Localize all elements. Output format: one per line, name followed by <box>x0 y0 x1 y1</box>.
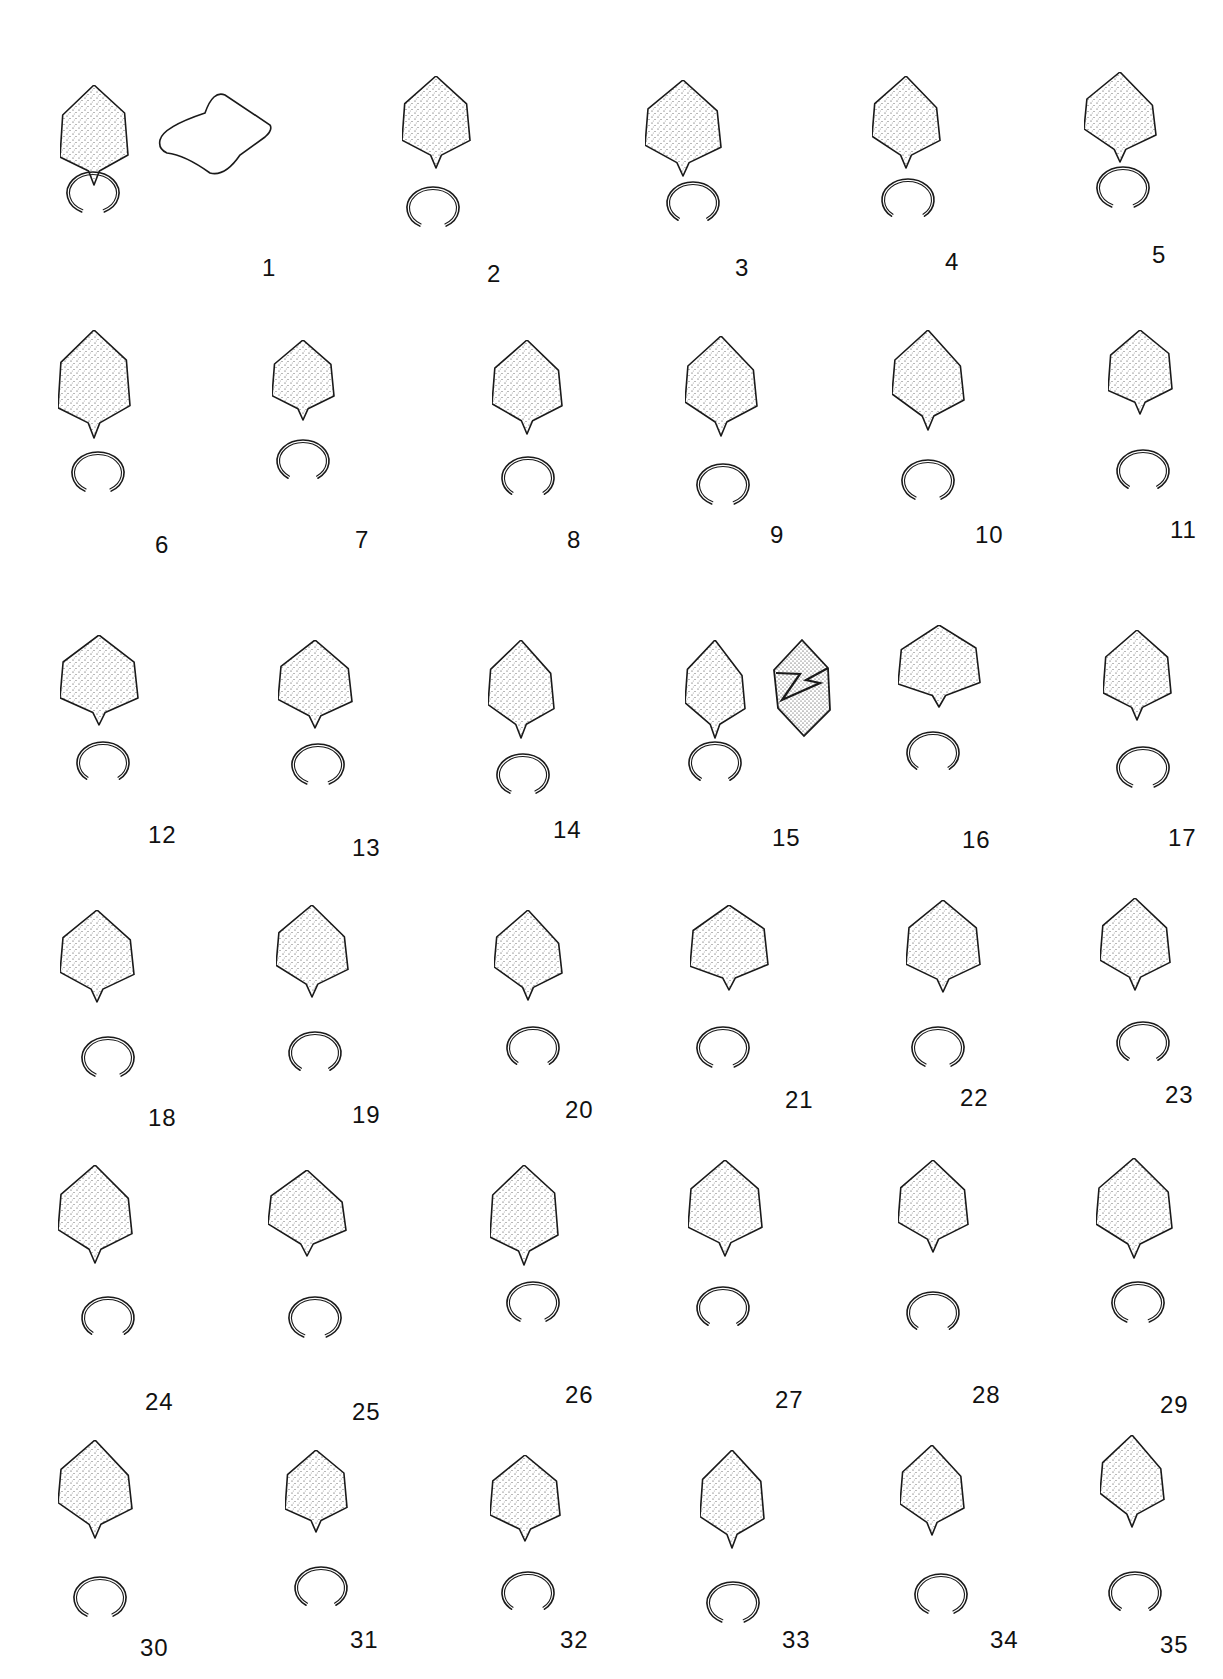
specimen-number-30: 30 <box>140 1634 169 1662</box>
specimen-outline-11 <box>1108 330 1176 418</box>
specimen-outline-8 <box>492 340 566 438</box>
specimen-outline-25 <box>268 1170 350 1260</box>
specimen-number-13: 13 <box>352 834 381 862</box>
specimen-number-33: 33 <box>782 1626 811 1654</box>
specimen-outline-27 <box>688 1160 766 1260</box>
specimen-number-4: 4 <box>945 248 959 276</box>
specimen-number-29: 29 <box>1160 1391 1189 1419</box>
specimen-outline-6 <box>58 330 134 442</box>
specimen-ring-12 <box>72 737 134 789</box>
specimen-number-17: 17 <box>1168 824 1197 852</box>
specimen-outline-13 <box>278 640 356 732</box>
specimen-number-10: 10 <box>975 521 1004 549</box>
specimen-number-18: 18 <box>148 1104 177 1132</box>
specimen-ring-32 <box>497 1567 559 1619</box>
specimen-outline-5 <box>1084 72 1160 166</box>
specimen-outline-9 <box>685 336 761 440</box>
specimen-outline-17 <box>1103 630 1175 724</box>
specimen-number-9: 9 <box>770 521 784 549</box>
specimen-number-20: 20 <box>565 1096 594 1124</box>
specimen-ring-25 <box>284 1292 346 1344</box>
specimen-outline-31 <box>285 1450 351 1536</box>
specimen-ring-7 <box>272 435 334 487</box>
specimen-outline-plain-1 <box>155 85 280 185</box>
specimen-number-5: 5 <box>1152 241 1166 269</box>
specimen-ring-20 <box>502 1022 564 1074</box>
specimen-ring-24 <box>77 1292 139 1344</box>
specimen-number-27: 27 <box>775 1386 804 1414</box>
specimen-number-28: 28 <box>972 1381 1001 1409</box>
specimen-number-2: 2 <box>487 260 501 288</box>
specimen-outline-12 <box>60 635 142 729</box>
specimen-outline-24 <box>58 1165 136 1267</box>
specimen-number-23: 23 <box>1165 1081 1194 1109</box>
specimen-number-11: 11 <box>1170 516 1197 544</box>
specimen-ring-1 <box>62 167 124 219</box>
specimen-ring-8 <box>497 452 559 504</box>
specimen-ring-28 <box>902 1287 964 1339</box>
specimen-outline-4 <box>872 76 944 172</box>
specimen-outline-35 <box>1100 1435 1168 1531</box>
specimen-outline-22 <box>906 900 984 996</box>
specimen-ring-16 <box>902 727 964 779</box>
specimen-outline-33 <box>700 1450 768 1552</box>
specimen-outline-7 <box>272 340 338 424</box>
specimen-ring-4 <box>877 174 939 226</box>
specimen-ring-18 <box>77 1032 139 1084</box>
specimen-ring-27 <box>692 1282 754 1334</box>
specimen-ring-6 <box>67 447 129 499</box>
specimen-outline-19 <box>276 905 352 1001</box>
specimen-outline-16 <box>898 625 984 711</box>
specimen-number-26: 26 <box>565 1381 594 1409</box>
specimen-outline-21 <box>690 905 772 994</box>
specimen-ring-35 <box>1104 1567 1166 1619</box>
specimen-outline-18 <box>60 910 138 1006</box>
specimen-ring-9 <box>692 459 754 511</box>
specimen-ring-11 <box>1112 445 1174 497</box>
specimen-twin-crystal-15 <box>770 638 834 738</box>
specimen-ring-15 <box>684 737 746 789</box>
specimen-number-3: 3 <box>735 254 749 282</box>
specimen-outline-20 <box>494 910 566 1004</box>
specimen-ring-17 <box>1112 742 1174 794</box>
specimen-number-24: 24 <box>145 1388 174 1416</box>
specimen-number-7: 7 <box>355 526 369 554</box>
specimen-number-16: 16 <box>962 826 991 854</box>
specimen-number-6: 6 <box>155 531 169 559</box>
specimen-ring-10 <box>897 455 959 507</box>
specimen-outline-15 <box>685 640 749 742</box>
specimen-number-8: 8 <box>567 526 581 554</box>
specimen-ring-5 <box>1092 162 1154 214</box>
specimen-outline-2 <box>402 76 474 172</box>
specimen-number-31: 31 <box>350 1626 379 1654</box>
specimen-number-15: 15 <box>772 824 801 852</box>
specimen-ring-3 <box>662 177 724 229</box>
specimen-number-25: 25 <box>352 1398 381 1426</box>
specimen-outline-28 <box>898 1160 972 1256</box>
specimen-ring-23 <box>1112 1017 1174 1069</box>
specimen-number-35: 35 <box>1160 1631 1189 1659</box>
specimen-number-32: 32 <box>560 1626 589 1654</box>
specimen-ring-22 <box>907 1022 969 1074</box>
specimen-ring-2 <box>402 182 464 234</box>
specimen-ring-13 <box>287 739 349 791</box>
specimen-number-14: 14 <box>553 816 582 844</box>
specimen-number-34: 34 <box>990 1626 1019 1654</box>
specimen-outline-23 <box>1100 898 1174 994</box>
specimen-ring-26 <box>502 1277 564 1329</box>
specimen-outline-26 <box>490 1165 562 1269</box>
specimen-plate: 1234567891011121314151617181920212223242… <box>0 0 1223 1679</box>
specimen-outline-30 <box>58 1440 136 1542</box>
specimen-outline-10 <box>892 330 968 434</box>
specimen-ring-14 <box>492 749 554 801</box>
specimen-ring-30 <box>69 1572 131 1624</box>
specimen-number-1: 1 <box>262 254 276 282</box>
specimen-outline-29 <box>1096 1158 1176 1262</box>
specimen-ring-33 <box>702 1577 764 1629</box>
specimen-number-12: 12 <box>148 821 177 849</box>
specimen-number-21: 21 <box>785 1086 814 1114</box>
specimen-number-22: 22 <box>960 1084 989 1112</box>
specimen-outline-32 <box>490 1455 564 1545</box>
specimen-number-19: 19 <box>352 1101 381 1129</box>
specimen-outline-34 <box>900 1445 968 1539</box>
